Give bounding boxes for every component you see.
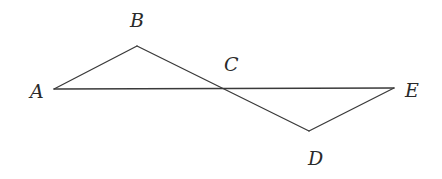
point-label-A: A	[28, 80, 44, 102]
point-label-E: E	[404, 79, 419, 101]
segment-DE	[309, 88, 394, 131]
point-label-D: D	[307, 147, 323, 169]
point-label-B: B	[129, 9, 144, 31]
figure-svg: A B C D E	[0, 0, 442, 179]
geometry-diagram: A B C D E	[0, 0, 442, 179]
segment-AB	[54, 46, 137, 89]
point-label-C: C	[224, 53, 239, 75]
